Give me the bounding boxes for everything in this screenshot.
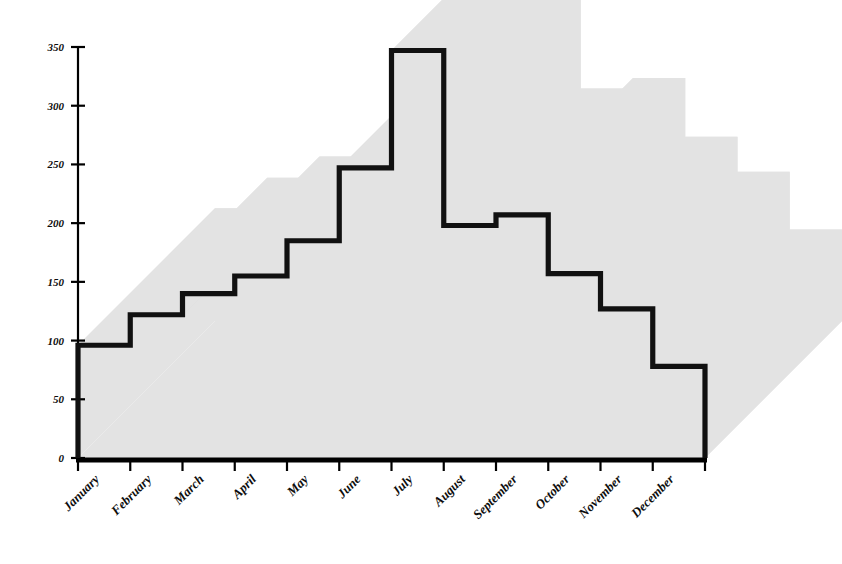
y-tick-label: 350 bbox=[47, 41, 65, 53]
y-tick-label: 200 bbox=[47, 217, 65, 229]
depth-back-face bbox=[215, 0, 842, 321]
depth-extrusion-group bbox=[78, 0, 842, 458]
y-tick-label: 150 bbox=[48, 276, 65, 288]
x-tick-label: August bbox=[430, 471, 469, 510]
x-tick-label: January bbox=[59, 471, 102, 514]
x-tick-label: April bbox=[228, 471, 259, 502]
chart-container: 050100150200250300350 JanuaryFebruaryMar… bbox=[0, 0, 842, 564]
y-tick-label: 50 bbox=[53, 393, 65, 405]
x-tick-label: November bbox=[575, 471, 626, 522]
x-tick-label: December bbox=[627, 471, 677, 521]
x-label-group: JanuaryFebruaryMarchAprilMayJuneJulyAugu… bbox=[59, 471, 677, 522]
x-tick-label: February bbox=[107, 471, 154, 518]
x-tick-label: March bbox=[170, 472, 207, 509]
x-tick-label: June bbox=[333, 471, 363, 501]
step-area-chart: 050100150200250300350 JanuaryFebruaryMar… bbox=[0, 0, 842, 564]
y-tick-label: 100 bbox=[48, 335, 65, 347]
x-tick-label: May bbox=[283, 471, 311, 499]
y-tick-label: 250 bbox=[47, 158, 65, 170]
y-tick-label: 300 bbox=[47, 100, 65, 112]
x-tick-label: October bbox=[532, 471, 573, 512]
x-tick-label: July bbox=[388, 471, 416, 499]
y-tick-label: 0 bbox=[59, 452, 65, 464]
x-tick-label: September bbox=[470, 471, 521, 522]
